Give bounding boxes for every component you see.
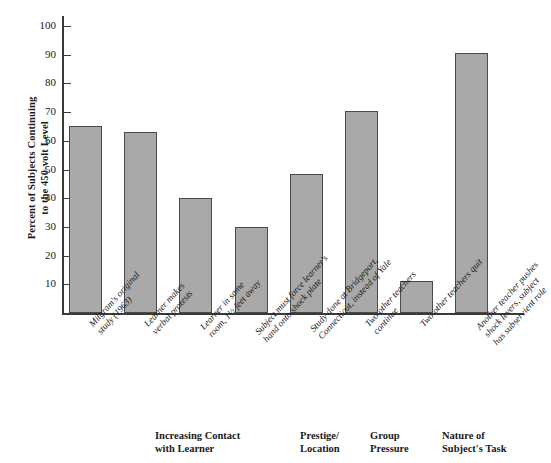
y-tick-label-40: 40	[20, 192, 56, 203]
group-header-1-line1: Increasing Contact	[155, 430, 240, 443]
group-header-1: Increasing Contactwith Learner	[155, 430, 240, 455]
group-header-3-line2: Pressure	[370, 443, 409, 456]
group-header-2-line2: Location	[300, 443, 340, 456]
group-header-4-line1: Nature of	[442, 430, 507, 443]
y-tick-label-70: 70	[20, 106, 56, 117]
y-tick-90	[64, 55, 71, 56]
group-header-2: Prestige/Location	[300, 430, 340, 455]
group-header-4: Nature ofSubject's Task	[442, 430, 507, 455]
y-tick-label-80: 80	[20, 77, 56, 88]
y-tick-label-10: 10	[20, 278, 56, 289]
group-header-3-line1: Group	[370, 430, 409, 443]
y-axis-line	[62, 16, 64, 314]
y-tick-label-60: 60	[20, 135, 56, 146]
group-header-2-line1: Prestige/	[300, 430, 340, 443]
y-tick-100	[64, 26, 71, 27]
group-header-1-line2: with Learner	[155, 443, 240, 456]
y-tick-80	[64, 83, 71, 84]
y-tick-label-100: 100	[20, 20, 56, 31]
y-tick-label-90: 90	[20, 49, 56, 60]
group-header-4-line2: Subject's Task	[442, 443, 507, 456]
group-header-3: GroupPressure	[370, 430, 409, 455]
y-tick-label-50: 50	[20, 164, 56, 175]
y-tick-70	[64, 112, 71, 113]
bar-1	[69, 126, 102, 313]
y-tick-label-30: 30	[20, 221, 56, 232]
y-tick-label-20: 20	[20, 250, 56, 261]
